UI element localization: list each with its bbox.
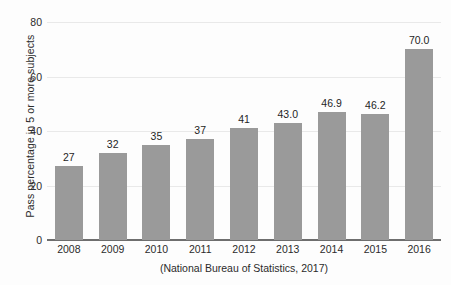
y-tick-label: 80 xyxy=(2,16,42,28)
x-tick-label: 2014 xyxy=(320,243,343,255)
bar-group[interactable]: 27 xyxy=(47,22,91,240)
y-axis-tick-labels: 020406080 xyxy=(0,22,42,240)
x-axis-caption: (National Bureau of Statistics, 2017) xyxy=(47,262,441,274)
bar[interactable] xyxy=(318,112,346,240)
bar-group[interactable]: 32 xyxy=(91,22,135,240)
x-tick-label: 2009 xyxy=(101,243,124,255)
y-tick-label: 20 xyxy=(2,180,42,192)
x-tick-label: 2013 xyxy=(276,243,299,255)
bar-group[interactable]: 46.9 xyxy=(310,22,354,240)
x-tick-label: 2012 xyxy=(232,243,255,255)
x-tick-label: 2010 xyxy=(145,243,168,255)
bar-value-label: 46.2 xyxy=(365,99,385,111)
bar-value-label: 37 xyxy=(194,124,206,136)
bar-value-label: 43.0 xyxy=(278,108,298,120)
bar-group[interactable]: 35 xyxy=(135,22,179,240)
bar-value-label: 41 xyxy=(238,113,250,125)
x-tick-label: 2016 xyxy=(407,243,430,255)
bar[interactable] xyxy=(230,128,258,240)
bar-value-label: 27 xyxy=(63,151,75,163)
bars-layer: 273235374143.046.946.270.0 xyxy=(47,22,441,240)
bar-group[interactable]: 70.0 xyxy=(397,22,441,240)
y-tick-label: 60 xyxy=(2,71,42,83)
bar-value-label: 35 xyxy=(151,130,163,142)
bar[interactable] xyxy=(405,49,433,240)
bar-group[interactable]: 41 xyxy=(222,22,266,240)
bar[interactable] xyxy=(99,153,127,240)
bar-value-label: 32 xyxy=(107,138,119,150)
bar-group[interactable]: 46.2 xyxy=(353,22,397,240)
bar[interactable] xyxy=(142,145,170,240)
bar-chart: Pass percentage in 5 or more subjects 02… xyxy=(0,0,451,285)
bar-value-label: 46.9 xyxy=(321,97,341,109)
x-tick-label: 2015 xyxy=(364,243,387,255)
bar-group[interactable]: 43.0 xyxy=(266,22,310,240)
bar[interactable] xyxy=(361,114,389,240)
y-tick-label: 0 xyxy=(2,234,42,246)
bar[interactable] xyxy=(274,123,302,240)
x-tick-label: 2011 xyxy=(189,243,212,255)
bar[interactable] xyxy=(55,166,83,240)
y-tick-label: 40 xyxy=(2,125,42,137)
bar[interactable] xyxy=(186,139,214,240)
x-axis-tick-labels: 200820092010201120122013201420152016 xyxy=(47,243,441,259)
bar-group[interactable]: 37 xyxy=(178,22,222,240)
bar-value-label: 70.0 xyxy=(409,34,429,46)
x-tick-label: 2008 xyxy=(57,243,80,255)
